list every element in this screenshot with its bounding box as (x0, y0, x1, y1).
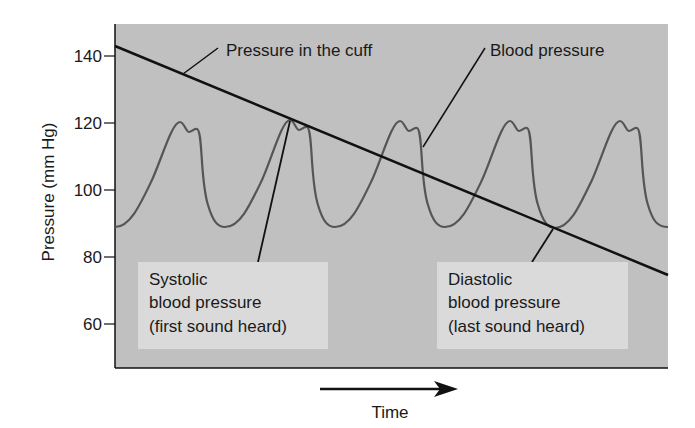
y-tick-100: 100 (74, 181, 102, 200)
y-tick-140: 140 (74, 47, 102, 66)
svg-text:blood pressure: blood pressure (149, 293, 261, 312)
y-tick-labels: 140 120 100 80 60 (74, 47, 102, 334)
svg-text:blood pressure: blood pressure (448, 293, 560, 312)
y-ticks (104, 56, 115, 324)
x-axis-label: Time (371, 403, 408, 422)
blood-pressure-diagram: 140 120 100 80 60 Pressure (mm Hg) Press… (0, 0, 695, 428)
y-tick-80: 80 (83, 248, 102, 267)
svg-text:(first sound heard): (first sound heard) (149, 317, 287, 336)
blood-pressure-label: Blood pressure (490, 41, 604, 60)
svg-text:(last sound heard): (last sound heard) (448, 317, 585, 336)
time-arrow-icon (320, 381, 458, 397)
svg-text:Systolic: Systolic (149, 270, 208, 289)
y-tick-60: 60 (83, 315, 102, 334)
cuff-label: Pressure in the cuff (226, 41, 372, 60)
svg-text:Diastolic: Diastolic (448, 270, 513, 289)
y-tick-120: 120 (74, 114, 102, 133)
y-axis-label: Pressure (mm Hg) (39, 123, 58, 262)
